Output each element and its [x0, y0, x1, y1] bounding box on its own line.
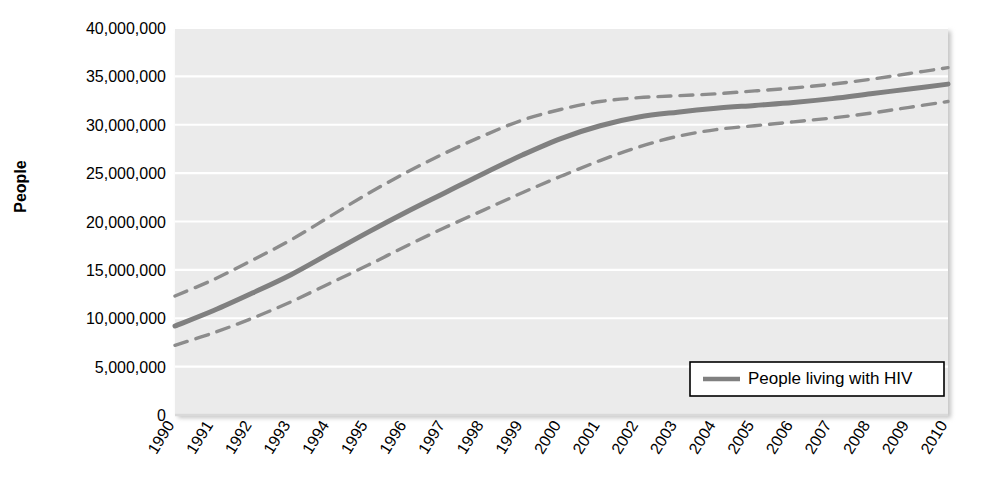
y-axis-tick-label: 15,000,000: [86, 262, 166, 279]
y-axis-tick-label: 30,000,000: [86, 117, 166, 134]
y-axis-tick-label: 5,000,000: [95, 359, 166, 376]
line-chart: 05,000,00010,000,00015,000,00020,000,000…: [0, 0, 985, 494]
y-axis-tick-label: 20,000,000: [86, 214, 166, 231]
chart-container: 05,000,00010,000,00015,000,00020,000,000…: [0, 0, 985, 494]
y-axis-tick-label: 40,000,000: [86, 20, 166, 37]
legend-entry-label: People living with HIV: [748, 369, 913, 388]
y-axis-tick-label: 25,000,000: [86, 165, 166, 182]
chart-legend: People living with HIV: [690, 362, 944, 396]
y-axis-title: People: [12, 160, 29, 213]
y-axis-tick-label: 35,000,000: [86, 68, 166, 85]
y-axis-tick-labels: 05,000,00010,000,00015,000,00020,000,000…: [86, 20, 166, 424]
y-axis-tick-label: 10,000,000: [86, 310, 166, 327]
